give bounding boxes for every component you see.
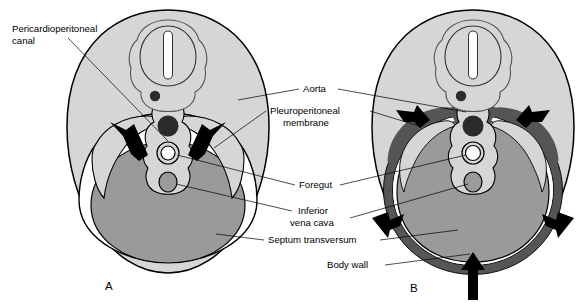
neural-tube-lumen-b — [469, 31, 478, 79]
label-foregut: Foregut — [299, 179, 332, 190]
panel-letter-a: A — [105, 280, 113, 292]
notochord-a — [150, 91, 160, 101]
foregut-b — [466, 146, 481, 161]
panel-b: B — [372, 10, 574, 300]
label-pericardioperitoneal-canal: Pericardioperitoneal canal — [12, 23, 100, 46]
label-inferior-vena-cava: Inferior vena cava — [290, 205, 334, 228]
embryo-diaphragm-diagram: A — [0, 0, 588, 306]
inferior-vena-cava-b — [464, 172, 482, 192]
foregut-a — [161, 146, 175, 160]
neural-tube-lumen-a — [164, 31, 173, 79]
label-pleuroperitoneal-membrane: Pleuroperitoneal membrane — [270, 105, 343, 128]
notochord-b — [456, 91, 466, 101]
label-body-wall: Body wall — [327, 259, 368, 270]
panel-letter-b: B — [410, 282, 418, 294]
inferior-vena-cava-a — [159, 172, 177, 192]
panel-a: A — [67, 10, 269, 292]
aorta-b — [463, 116, 484, 137]
label-aorta: Aorta — [303, 83, 327, 94]
label-septum-transversum: Septum transversum — [268, 234, 357, 245]
